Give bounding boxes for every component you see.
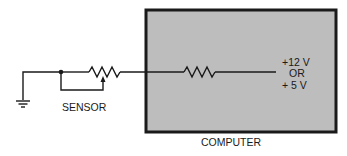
computer-box: [146, 10, 336, 132]
ground-wire: [23, 72, 61, 100]
wiper-arrow-icon: [101, 76, 106, 82]
ground-icon: [16, 101, 30, 107]
voltage-label-5v: + 5 V: [282, 79, 307, 91]
sensor-wiper-wire: [61, 72, 103, 90]
circuit-diagram: SENSOR COMPUTER +12 V OR + 5 V: [0, 0, 347, 156]
computer-label: COMPUTER: [201, 136, 262, 148]
sensor-label: SENSOR: [62, 101, 107, 113]
sensor-resistor-icon: [89, 67, 120, 77]
voltage-label-or: OR: [289, 67, 305, 79]
